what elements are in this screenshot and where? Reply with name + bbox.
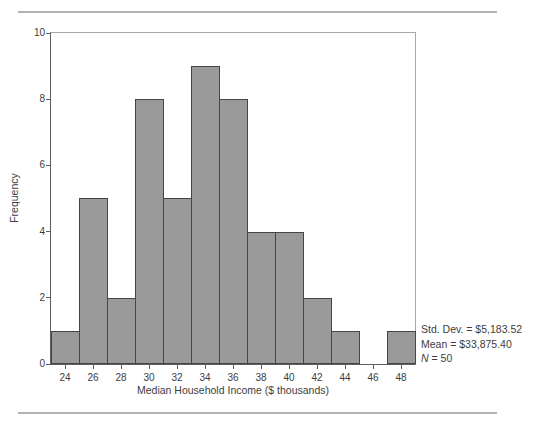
stats-mean: Mean = $33,875.40 <box>421 337 522 352</box>
x-axis-tick <box>289 365 290 369</box>
y-axis-tick <box>46 33 51 34</box>
x-tick-label: 42 <box>303 372 331 384</box>
histogram-bar <box>51 331 80 364</box>
x-tick-label: 24 <box>51 372 79 384</box>
plot-area: 024681024262830323436384042444648 <box>50 32 416 365</box>
histogram-bar <box>387 331 416 364</box>
x-axis-tick <box>317 365 318 369</box>
y-tick-label: 6 <box>19 159 45 171</box>
y-axis-tick <box>46 99 51 100</box>
histogram-bar <box>135 99 164 364</box>
top-divider <box>18 11 497 13</box>
y-tick-label: 4 <box>19 226 45 238</box>
stats-n-value: = 50 <box>429 352 453 364</box>
x-axis-tick <box>261 365 262 369</box>
x-tick-label: 26 <box>79 372 107 384</box>
histogram-bar <box>275 232 304 364</box>
stats-std-dev: Std. Dev. = $5,183.52 <box>421 322 522 337</box>
y-tick-label: 2 <box>19 292 45 304</box>
bottom-divider <box>18 412 497 414</box>
y-axis-tick <box>46 165 51 166</box>
histogram-bar <box>247 232 276 364</box>
x-axis-tick <box>65 365 66 369</box>
histogram-bar <box>303 298 332 364</box>
y-tick-label: 10 <box>19 27 45 39</box>
x-tick-label: 36 <box>219 372 247 384</box>
stats-n: N = 50 <box>421 351 522 366</box>
x-axis-tick <box>121 365 122 369</box>
y-tick-label: 8 <box>19 93 45 105</box>
x-axis-tick <box>205 365 206 369</box>
x-tick-label: 44 <box>331 372 359 384</box>
x-tick-label: 48 <box>387 372 415 384</box>
x-tick-label: 46 <box>359 372 387 384</box>
x-axis-tick <box>93 365 94 369</box>
histogram-bar <box>107 298 136 364</box>
x-axis-tick <box>401 365 402 369</box>
x-tick-label: 34 <box>191 372 219 384</box>
x-axis-tick <box>149 365 150 369</box>
histogram-bar <box>331 331 360 364</box>
y-tick-label: 0 <box>19 358 45 370</box>
stats-annotation: Std. Dev. = $5,183.52 Mean = $33,875.40 … <box>421 322 522 366</box>
x-axis-tick <box>233 365 234 369</box>
y-axis-tick <box>46 231 51 232</box>
y-axis-tick <box>46 364 51 365</box>
x-tick-label: 28 <box>107 372 135 384</box>
stats-n-symbol: N <box>421 352 429 364</box>
histogram-bar <box>79 198 108 364</box>
x-axis-title: Median Household Income ($ thousands) <box>50 384 416 396</box>
y-axis-tick <box>46 297 51 298</box>
x-tick-label: 30 <box>135 372 163 384</box>
histogram-bar <box>191 66 220 364</box>
histogram-bar <box>163 198 192 364</box>
x-tick-label: 40 <box>275 372 303 384</box>
x-tick-label: 32 <box>163 372 191 384</box>
histogram-bar <box>219 99 248 364</box>
x-axis-tick <box>177 365 178 369</box>
x-axis-tick <box>373 365 374 369</box>
x-axis-tick <box>345 365 346 369</box>
x-tick-label: 38 <box>247 372 275 384</box>
chart-figure: Frequency 024681024262830323436384042444… <box>0 0 541 425</box>
